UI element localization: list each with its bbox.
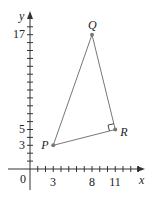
triangle-pqr [53,35,115,146]
x-axis-label: x [138,173,145,187]
point-r [113,128,117,132]
label-r: R [119,125,128,139]
coordinate-diagram: P Q R y x 0 3 8 11 3 5 17 [0,0,157,199]
x-tick-label-11: 11 [109,175,121,189]
point-q [90,33,94,37]
label-q: Q [88,18,97,32]
point-p [51,143,55,147]
y-axis-label: y [18,9,25,23]
y-axis-arrow-icon [27,11,33,19]
x-tick-label-8: 8 [89,175,95,189]
label-p: P [40,138,49,152]
y-tick-label-17: 17 [13,27,25,41]
y-tick-label-5: 5 [19,122,25,136]
origin-label: 0 [20,172,26,186]
y-tick-label-3: 3 [19,138,25,152]
x-tick-label-3: 3 [50,175,56,189]
